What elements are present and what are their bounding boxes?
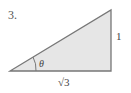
right-triangle [10, 10, 111, 71]
opposite-side-label: 1 [116, 30, 122, 42]
right-triangle-figure: θ 1 √3 [0, 0, 131, 93]
angle-theta-label: θ [39, 58, 44, 69]
adjacent-side-label: √3 [58, 76, 70, 88]
